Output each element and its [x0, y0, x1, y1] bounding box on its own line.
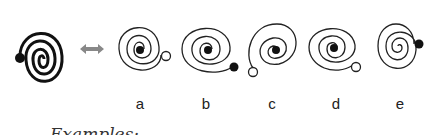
option-label-d: d	[326, 95, 346, 112]
option-label-a: a	[130, 95, 150, 112]
option-label-e: e	[390, 95, 410, 112]
examples-caption: Examples:	[50, 124, 139, 135]
spiral-option-d[interactable]	[305, 15, 367, 80]
spiral-option-a[interactable]	[115, 15, 175, 80]
option-label-c: c	[262, 95, 282, 112]
spiral-option-e[interactable]	[374, 14, 426, 80]
reference-spiral	[8, 18, 70, 98]
spiral-option-c[interactable]	[243, 18, 305, 80]
spiral-option-b[interactable]	[178, 15, 240, 80]
option-label-b: b	[196, 95, 216, 112]
double-arrow-icon	[80, 43, 104, 55]
